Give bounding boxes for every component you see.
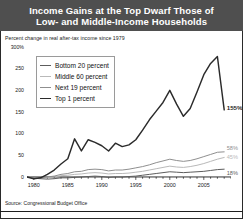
legend-label-bottom20: Bottom 20 percent [55, 60, 109, 71]
y-tick-label: 100 [0, 130, 24, 136]
y-tick-label: 0 [0, 174, 24, 180]
legend-item-middle60: Middle 60 percent [40, 71, 109, 82]
legend-swatch-bottom20 [40, 65, 51, 66]
end-label-middle-60-percent: 45% [227, 154, 238, 160]
x-tick-label: 2005 [191, 182, 217, 188]
end-label-next-19-percent: 58% [227, 145, 238, 151]
legend-item-bottom20: Bottom 20 percent [40, 60, 109, 71]
x-tick-label: 1990 [89, 182, 115, 188]
legend-label-next19: Next 19 percent [55, 82, 102, 93]
legend-swatch-middle60 [40, 76, 51, 77]
x-tick-label: 1985 [55, 182, 81, 188]
x-tick-label: 2000 [157, 182, 183, 188]
chart-figure: Income Gains at the Top Dwarf Those of L… [0, 0, 243, 219]
x-tick-label: 1995 [123, 182, 149, 188]
y-tick-label: 150 [0, 109, 24, 115]
y-tick-label: 50 [0, 152, 24, 158]
chart-title-line-2: Low- and Middle-Income Households [36, 16, 207, 27]
chart-source: Source: Congressional Budget Office [5, 200, 87, 206]
source-rule [0, 211, 243, 212]
chart-title-bar: Income Gains at the Top Dwarf Those of L… [0, 0, 243, 31]
legend-swatch-next19 [40, 87, 51, 88]
chart-subtitle: Percent change in real after-tax income … [5, 35, 125, 41]
chart-title-line-1: Income Gains at the Top Dwarf Those of [29, 5, 214, 16]
legend-item-top1: Top 1 percent [40, 93, 109, 104]
end-label-top-1-percent: 155% [227, 104, 243, 111]
y-tick-label: 300% [0, 44, 24, 50]
x-tick-label: 1980 [21, 182, 47, 188]
legend-swatch-top1 [40, 98, 51, 99]
legend-label-middle60: Middle 60 percent [55, 71, 107, 82]
y-tick-label: 250 [0, 65, 24, 71]
legend-item-next19: Next 19 percent [40, 82, 109, 93]
end-label-bottom-20-percent: 18% [227, 170, 238, 176]
legend-label-top1: Top 1 percent [55, 93, 95, 104]
chart-legend: Bottom 20 percent Middle 60 percent Next… [36, 56, 115, 108]
y-tick-label: 200 [0, 87, 24, 93]
